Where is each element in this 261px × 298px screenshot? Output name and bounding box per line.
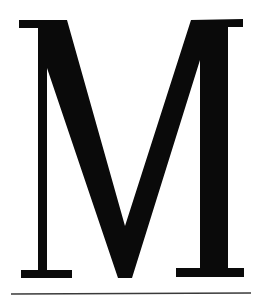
- horizontal-rule: [11, 293, 251, 294]
- letter-m-glyph: [19, 19, 244, 278]
- letter-m-svg: [0, 0, 261, 298]
- letter-m-illustration: M: [0, 0, 261, 298]
